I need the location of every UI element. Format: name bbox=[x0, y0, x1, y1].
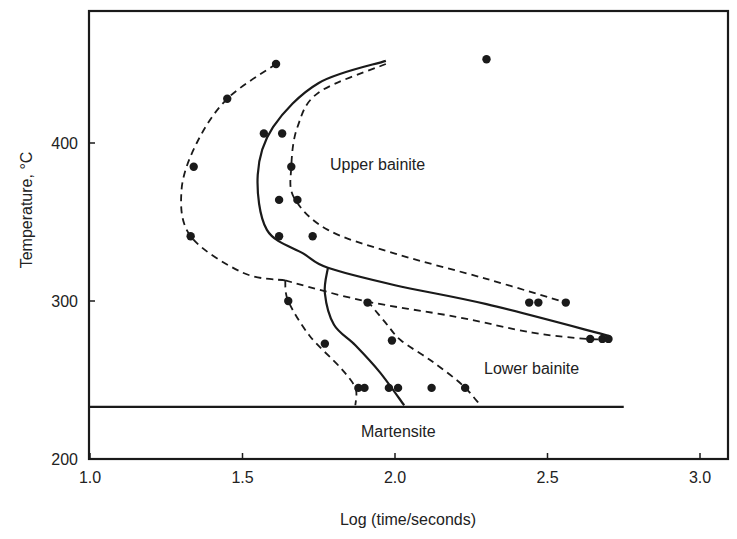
y-tick-label: 300 bbox=[51, 293, 78, 310]
curves bbox=[90, 61, 624, 407]
data-point bbox=[186, 232, 194, 240]
data-point bbox=[284, 297, 292, 305]
data-point bbox=[321, 339, 329, 347]
data-point bbox=[360, 384, 368, 392]
data-point bbox=[394, 384, 402, 392]
data-point bbox=[293, 196, 301, 204]
data-point bbox=[461, 384, 469, 392]
y-tick-label: 400 bbox=[51, 135, 78, 152]
chart: 1.01.52.02.53.0200300400 Log (time/secon… bbox=[0, 0, 737, 539]
data-point bbox=[287, 163, 295, 171]
data-point bbox=[534, 298, 542, 306]
martensite-label: Martensite bbox=[361, 423, 436, 440]
data-point bbox=[272, 60, 280, 68]
x-tick-label: 2.0 bbox=[384, 469, 406, 486]
labels: Log (time/seconds) Temperature, °C Upper… bbox=[18, 152, 579, 528]
dashed-curve bbox=[285, 280, 608, 339]
x-tick-label: 3.0 bbox=[689, 469, 711, 486]
plot-frame bbox=[89, 11, 728, 459]
data-point bbox=[427, 384, 435, 392]
data-point bbox=[385, 384, 393, 392]
data-point bbox=[482, 55, 490, 63]
data-point bbox=[223, 95, 231, 103]
x-tick-label: 2.5 bbox=[536, 469, 558, 486]
data-point bbox=[260, 129, 268, 137]
data-point bbox=[525, 298, 533, 306]
data-point bbox=[275, 196, 283, 204]
data-point bbox=[604, 335, 612, 343]
data-point bbox=[586, 335, 594, 343]
x-tick-label: 1.0 bbox=[79, 469, 101, 486]
dashed-curve bbox=[181, 64, 285, 280]
x-tick-label: 1.5 bbox=[231, 469, 253, 486]
lower-bainite-label: Lower bainite bbox=[484, 360, 579, 377]
dashed-curve bbox=[290, 64, 565, 303]
solid-curve bbox=[258, 61, 609, 336]
data-point bbox=[275, 232, 283, 240]
data-point bbox=[190, 163, 198, 171]
data-point bbox=[388, 336, 396, 344]
x-axis-title: Log (time/seconds) bbox=[340, 511, 476, 528]
y-axis-title: Temperature, °C bbox=[18, 152, 35, 269]
data-point bbox=[278, 129, 286, 137]
data-point bbox=[363, 298, 371, 306]
data-point bbox=[562, 298, 570, 306]
data-points bbox=[186, 55, 612, 392]
data-point bbox=[308, 232, 316, 240]
y-tick-label: 200 bbox=[51, 451, 78, 468]
upper-bainite-label: Upper bainite bbox=[330, 156, 425, 173]
